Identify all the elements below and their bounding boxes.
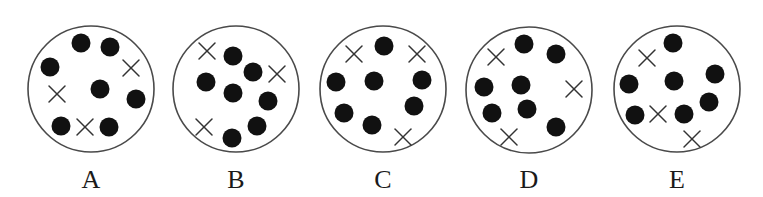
filled-dot-icon — [675, 105, 694, 124]
filled-dot-icon — [664, 34, 683, 53]
panel-c: C — [320, 26, 446, 194]
filled-dot-icon — [335, 104, 354, 123]
cross-mark-icon — [650, 106, 666, 122]
panel-d: D — [466, 27, 592, 194]
figure-canvas: ABCDE — [0, 0, 763, 197]
filled-dot-icon — [248, 117, 267, 136]
filled-dot-icon — [483, 104, 502, 123]
cross-mark-icon — [684, 131, 700, 147]
filled-dot-icon — [41, 58, 60, 77]
filled-dot-icon — [518, 100, 537, 119]
panel-a: A — [28, 26, 154, 194]
cross-mark-icon — [269, 66, 285, 82]
panel-label: B — [227, 165, 244, 194]
filled-dot-icon — [224, 47, 243, 66]
panel-e: E — [614, 26, 740, 194]
panel-b: B — [173, 26, 299, 194]
filled-dot-icon — [91, 80, 110, 99]
cross-mark-icon — [566, 81, 582, 97]
filled-dot-icon — [413, 71, 432, 90]
panel-label: C — [374, 165, 391, 194]
filled-dot-icon — [365, 72, 384, 91]
filled-dot-icon — [223, 129, 242, 148]
cross-mark-icon — [123, 60, 139, 76]
panel-label: D — [520, 165, 539, 194]
filled-dot-icon — [327, 73, 346, 92]
filled-dot-icon — [244, 63, 263, 82]
filled-dot-icon — [547, 118, 566, 137]
cross-mark-icon — [488, 49, 504, 65]
filled-dot-icon — [363, 116, 382, 135]
filled-dot-icon — [700, 93, 719, 112]
cross-mark-icon — [346, 46, 362, 62]
filled-dot-icon — [375, 37, 394, 56]
filled-dot-icon — [100, 118, 119, 137]
panel-label: A — [82, 165, 101, 194]
filled-dot-icon — [127, 90, 146, 109]
filled-dot-icon — [620, 75, 639, 94]
cross-mark-icon — [77, 119, 93, 135]
filled-dot-icon — [52, 117, 71, 136]
cross-mark-icon — [199, 43, 215, 59]
cross-mark-icon — [395, 129, 411, 145]
cross-mark-icon — [639, 50, 655, 66]
cross-mark-icon — [501, 129, 517, 145]
filled-dot-icon — [197, 73, 216, 92]
filled-dot-icon — [405, 97, 424, 116]
filled-dot-icon — [101, 38, 120, 57]
filled-dot-icon — [512, 76, 531, 95]
filled-dot-icon — [626, 106, 645, 125]
filled-dot-icon — [259, 92, 278, 111]
filled-dot-icon — [665, 72, 684, 91]
filled-dot-icon — [224, 84, 243, 103]
cross-mark-icon — [49, 86, 65, 102]
cross-mark-icon — [196, 119, 212, 135]
filled-dot-icon — [706, 65, 725, 84]
panel-label: E — [669, 165, 685, 194]
filled-dot-icon — [547, 45, 566, 64]
filled-dot-icon — [72, 34, 91, 53]
filled-dot-icon — [515, 35, 534, 54]
cross-mark-icon — [409, 46, 425, 62]
filled-dot-icon — [475, 78, 494, 97]
